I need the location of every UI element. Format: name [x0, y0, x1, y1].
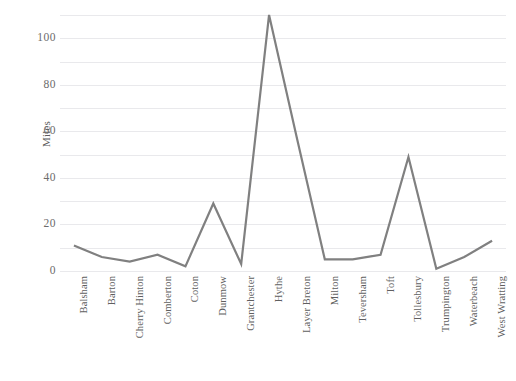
x-axis-tick-label: Coton: [189, 276, 200, 302]
x-axis-tick-label: West Wratting: [496, 276, 507, 337]
y-axis-tick-labels: 020406080100: [0, 0, 56, 300]
x-axis-tick-labels: BalshamBartonCherry HintonCombertonCoton…: [60, 276, 506, 376]
x-axis-tick-label: Barton: [106, 276, 117, 305]
y-axis-tick-label: 20: [0, 219, 56, 231]
y-axis-tick-label: 80: [0, 79, 56, 91]
x-axis-tick-label: Tollesbury: [412, 276, 423, 322]
series-line-miles: [60, 8, 506, 271]
y-axis-tick-label: 60: [0, 126, 56, 138]
x-axis-tick-label: Teversham: [357, 276, 368, 323]
plot-area: [60, 8, 506, 271]
x-axis-tick-label: Waterbeach: [468, 276, 479, 326]
data-line: [74, 15, 492, 269]
x-axis-tick-label: Milton: [329, 276, 340, 305]
line-chart: Miles 020406080100 BalshamBartonCherry H…: [0, 0, 516, 381]
x-axis-tick-label: Cherry Hinton: [134, 276, 145, 338]
x-axis-tick-label: Toft: [385, 276, 396, 294]
x-axis-tick-label: Grantchester: [245, 276, 256, 331]
y-axis-tick-label: 0: [0, 265, 56, 277]
x-axis-tick-label: Trumpington: [440, 276, 451, 332]
x-axis-tick-label: Comberton: [162, 276, 173, 324]
x-axis-tick-label: Hythe: [273, 276, 284, 302]
x-axis-tick-label: Layer Breton: [301, 276, 312, 333]
gridline: [60, 271, 506, 272]
x-axis-tick-label: Balsham: [78, 276, 89, 313]
y-axis-tick-label: 40: [0, 172, 56, 184]
y-axis-tick-label: 100: [0, 33, 56, 45]
x-axis-tick-label: Dunmow: [217, 276, 228, 316]
